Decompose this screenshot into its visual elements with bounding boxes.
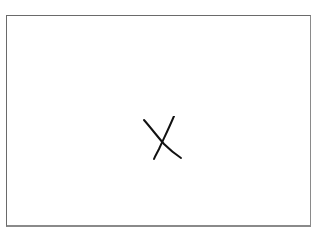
caption-text (55, 230, 275, 235)
drawing-canvas[interactable] (6, 15, 311, 227)
x-mark-icon (137, 116, 187, 166)
